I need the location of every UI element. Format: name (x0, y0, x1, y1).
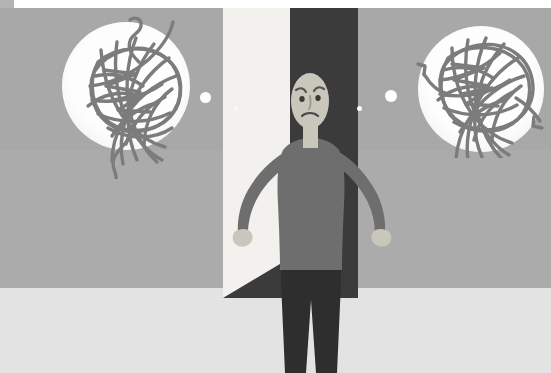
standing-person-figure (0, 0, 551, 373)
paper-edge-white-strip (14, 0, 551, 8)
paper-edge-left-gray (0, 0, 14, 8)
illustration-canvas: Person standing in a half-light half-dar… (0, 0, 551, 373)
